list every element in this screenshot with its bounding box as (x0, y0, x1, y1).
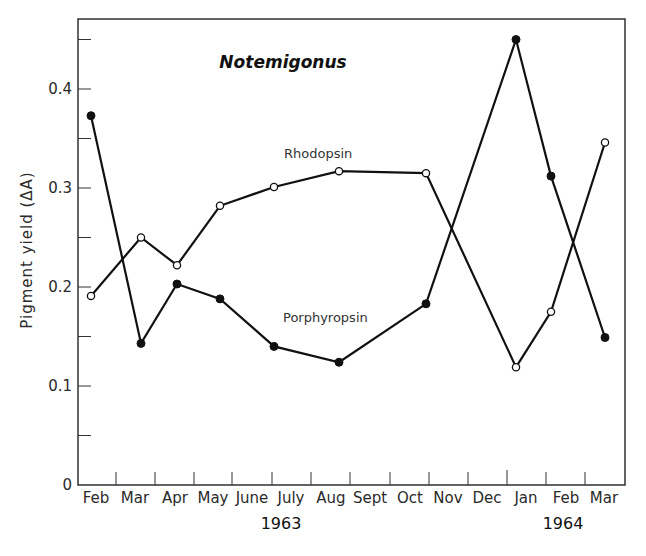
filled-circle-marker (335, 358, 343, 366)
x-month-label: June (235, 489, 269, 507)
filled-circle-marker (601, 333, 609, 341)
open-circle-marker (512, 364, 519, 371)
x-month-label: Feb (83, 489, 110, 507)
y-axis-ticks (78, 40, 91, 436)
x-month-label: Aug (316, 489, 345, 507)
pigment-yield-chart: 0 0.1 0.2 0.3 0.4 Pigment yield (ΔA) Feb… (0, 0, 646, 556)
open-circle-marker (601, 139, 608, 146)
filled-circle-marker (512, 36, 520, 44)
y-axis-label: Pigment yield (ΔA) (18, 171, 36, 328)
x-month-label: Oct (397, 489, 423, 507)
filled-circle-marker (547, 172, 555, 180)
x-axis-month-labels: FebMarAprMayJuneJulyAugSeptOctNovDecJanF… (83, 489, 619, 507)
year-label-1964: 1964 (543, 514, 584, 533)
x-month-label: Mar (121, 489, 150, 507)
open-circle-marker (547, 308, 554, 315)
filled-circle-marker (87, 112, 95, 120)
filled-circle-marker (422, 300, 430, 308)
y-tick-label-0-3: 0.3 (48, 179, 72, 197)
open-circle-marker (270, 183, 277, 190)
x-month-label: Dec (472, 489, 501, 507)
x-month-label: Apr (162, 489, 189, 507)
chart-title: Notemigonus (219, 52, 346, 72)
y-tick-label-0-2: 0.2 (48, 278, 72, 296)
open-circle-marker (173, 262, 180, 269)
open-circle-marker (137, 234, 144, 241)
y-tick-label-0-1: 0.1 (48, 377, 72, 395)
open-circle-marker (335, 168, 342, 175)
open-circle-marker (87, 292, 94, 299)
rhodopsin-markers (87, 139, 608, 371)
x-axis-ticks (116, 470, 585, 485)
x-month-label: May (197, 489, 228, 507)
filled-circle-marker (216, 295, 224, 303)
x-month-label: Jan (513, 489, 537, 507)
open-circle-marker (422, 170, 429, 177)
filled-circle-marker (270, 342, 278, 350)
rhodopsin-label: Rhodopsin (284, 146, 352, 161)
x-month-label: Mar (590, 489, 619, 507)
y-tick-label-0: 0 (62, 476, 72, 494)
year-label-1963: 1963 (261, 514, 302, 533)
x-month-label: Nov (433, 489, 462, 507)
filled-circle-marker (137, 339, 145, 347)
y-tick-label-0-4: 0.4 (48, 80, 72, 98)
rhodopsin-line (91, 142, 605, 367)
x-month-label: Feb (553, 489, 580, 507)
open-circle-marker (216, 202, 223, 209)
porphyropsin-label: Porphyropsin (283, 310, 368, 325)
filled-circle-marker (173, 280, 181, 288)
x-month-label: July (277, 489, 305, 507)
x-month-label: Sept (353, 489, 387, 507)
